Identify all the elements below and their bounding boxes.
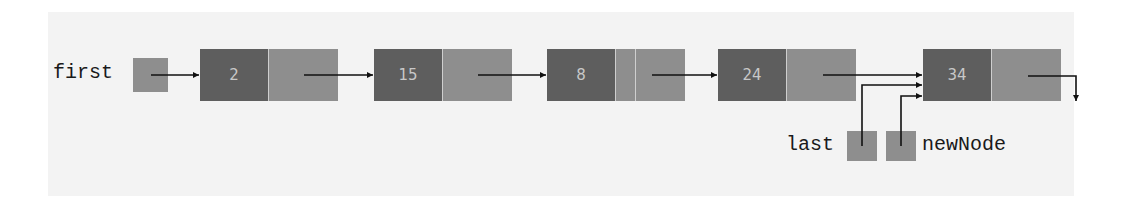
arrows-layer (0, 0, 1122, 200)
arrow-last-to-node5 (862, 85, 922, 146)
arrow-node5-to-null (1028, 76, 1076, 101)
arrow-newnode-to-node5 (901, 96, 922, 146)
